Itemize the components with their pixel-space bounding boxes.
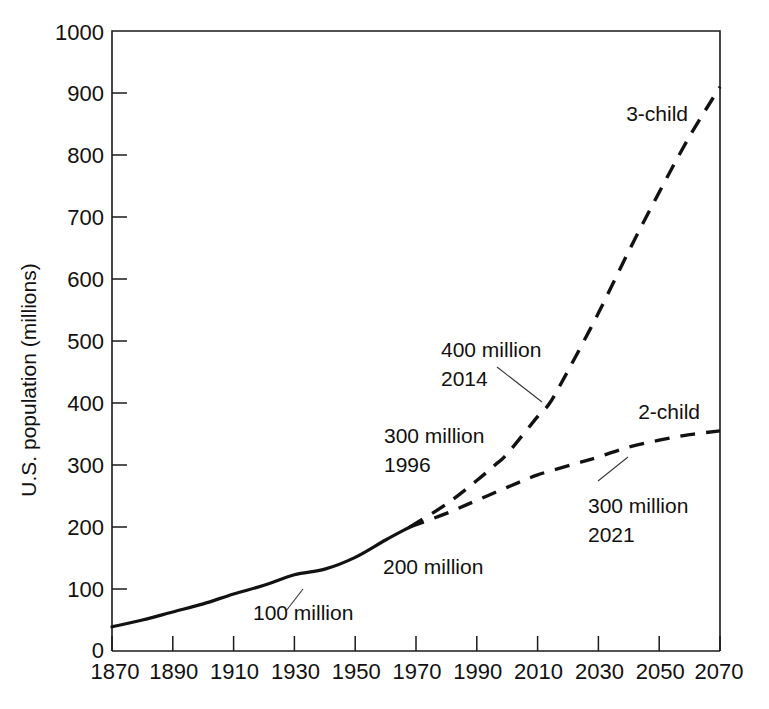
y-tick-label-500: 500 xyxy=(67,329,104,354)
y-tick-label-1000: 1000 xyxy=(55,20,104,45)
annotations: 100 million 200 million 300 million 1996… xyxy=(253,338,688,624)
x-tick-label-1970: 1970 xyxy=(393,659,442,684)
y-tick-label-800: 800 xyxy=(67,143,104,168)
x-tick-label-1950: 1950 xyxy=(332,659,381,684)
leader-line-400-million-2014 xyxy=(497,367,542,402)
series-label-3-child: 3-child xyxy=(626,102,688,125)
y-axis-ticks xyxy=(112,93,127,589)
us-population-projection-chart: 0 100 200 300 400 500 600 700 800 900 10… xyxy=(0,0,769,709)
x-tick-label-2070: 2070 xyxy=(695,659,744,684)
x-tick-label-1870: 1870 xyxy=(91,659,140,684)
x-tick-label-1910: 1910 xyxy=(210,659,259,684)
series-label-2-child: 2-child xyxy=(638,400,700,423)
y-tick-label-100: 100 xyxy=(67,577,104,602)
annotation-100-million: 100 million xyxy=(253,601,353,624)
y-tick-label-300: 300 xyxy=(67,453,104,478)
y-axis-tick-labels: 0 100 200 300 400 500 600 700 800 900 10… xyxy=(55,20,104,663)
x-axis-ticks xyxy=(112,636,720,651)
y-tick-label-600: 600 xyxy=(67,267,104,292)
annotation-400-million-2014-line2: 2014 xyxy=(441,367,488,390)
annotation-300-million-1996-line2: 1996 xyxy=(384,453,431,476)
series-3-child-line xyxy=(410,87,720,527)
annotation-300-million-1996-line1: 300 million xyxy=(384,424,484,447)
y-tick-label-400: 400 xyxy=(67,391,104,416)
x-tick-label-2030: 2030 xyxy=(575,659,624,684)
x-axis-tick-labels: 1870 1890 1910 1930 1950 1970 1990 2010 … xyxy=(91,659,744,684)
annotation-300-million-2021-line2: 2021 xyxy=(588,523,635,546)
y-tick-label-900: 900 xyxy=(67,81,104,106)
chart-root: 0 100 200 300 400 500 600 700 800 900 10… xyxy=(0,0,769,709)
x-tick-label-2050: 2050 xyxy=(636,659,685,684)
leader-line-300-million-2021 xyxy=(598,457,628,481)
annotation-300-million-2021-line1: 300 million xyxy=(588,494,688,517)
x-tick-label-1930: 1930 xyxy=(271,659,320,684)
annotation-200-million: 200 million xyxy=(383,555,483,578)
y-axis-title: U.S. population (millions) xyxy=(17,263,40,496)
y-tick-label-200: 200 xyxy=(67,515,104,540)
x-tick-label-1990: 1990 xyxy=(453,659,502,684)
annotation-400-million-2014-line1: 400 million xyxy=(441,338,541,361)
x-tick-label-2010: 2010 xyxy=(514,659,563,684)
y-tick-label-700: 700 xyxy=(67,205,104,230)
x-tick-label-1890: 1890 xyxy=(149,659,198,684)
